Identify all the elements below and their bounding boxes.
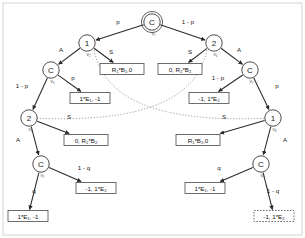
edge-label-A: A [16, 136, 21, 143]
node-label: C [247, 66, 253, 75]
payoff-layer: R₁*B₁,00, R₂*B₂1*E₁, -1-1, 1*E₂0, R₂*B₂R… [8, 64, 294, 222]
node-v4[interactable]: 2v₄ [21, 110, 37, 133]
infoset_right [30, 50, 207, 119]
edge-v5-to-payoff_8 [49, 168, 81, 182]
payoff-box: 1*E₁, -1 [70, 93, 110, 104]
payoff-text: -1, 1*E₂ [198, 95, 220, 102]
node-label: C [48, 66, 54, 75]
edge-label-1p: 1 - p [182, 18, 195, 25]
payoff-box: 1*E₁, -1 [185, 183, 225, 194]
node-vertex-label: v₅ [40, 173, 44, 178]
edge-v9-to-payoff_9 [220, 167, 253, 181]
payoff-box: -1, 1*E₂ [76, 183, 116, 194]
edge-v8-to-v9 [263, 127, 270, 155]
node-label: C [258, 160, 264, 169]
payoff-text: 0, R₂*B₂ [75, 137, 98, 144]
edge-v4-to-payoff_5 [37, 121, 69, 133]
payoff-text: R₁*B₁,0 [188, 137, 209, 144]
edge-label-p: p [116, 18, 120, 25]
payoff-text: R₁*B₁,0 [112, 66, 133, 73]
payoff-text: 1*E₁, -1 [194, 185, 216, 192]
edge-label-p: p [275, 82, 279, 89]
node-label: C [149, 18, 155, 27]
node-vertex-label: v₄ [28, 127, 32, 132]
edge-v3-to-v4 [33, 78, 47, 109]
edge-label-1q: 1 - q [78, 164, 91, 171]
edge-v1-to-v2 [96, 25, 144, 40]
node-label: 2 [212, 39, 217, 48]
edge-label-A: A [237, 46, 242, 53]
payoff-text: 1*E₁, -1 [79, 95, 101, 102]
edge-v3-to-payoff_3 [58, 75, 81, 91]
edge-label-S: S [188, 48, 192, 55]
edge-label-layer: p1 - pASSA1 - pp1 - ppSASAq1 - qq1 - q [16, 18, 288, 194]
edge-label-S: S [109, 48, 113, 55]
node-v8[interactable]: 1v₈ [265, 110, 281, 133]
payoff-box: R₁*B₁,0 [176, 135, 220, 146]
information-set-layer [30, 50, 272, 119]
node-label: 1 [85, 39, 90, 48]
payoff-box: 0, R₂*B₂ [64, 135, 108, 146]
edge-label-1p: 1 - p [16, 82, 29, 89]
infoset_left [94, 50, 272, 119]
edge-label-A: A [283, 136, 288, 143]
payoff-text: 0, R₂*B₂ [169, 66, 192, 73]
node-v1[interactable]: Cv₁ [141, 11, 162, 36]
node-vertex-label: v₉ [260, 173, 264, 178]
edge-label-A: A [59, 46, 64, 53]
node-v2[interactable]: 1v₂ [79, 35, 95, 58]
node-vertex-label: v₁ [152, 31, 156, 36]
diagram-frame [3, 3, 302, 235]
game-tree-svg: R₁*B₁,00, R₂*B₂1*E₁, -1-1, 1*E₂0, R₂*B₂R… [0, 0, 305, 238]
node-v9[interactable]: Cv₉ [253, 156, 269, 179]
edge-v7-to-v8 [254, 78, 269, 110]
edge-label-1p: 1 - p [212, 74, 225, 81]
diagram-canvas: R₁*B₁,00, R₂*B₂1*E₁, -1-1, 1*E₂0, R₂*B₂R… [0, 0, 305, 238]
node-label: 2 [27, 114, 32, 123]
payoff-box: R₁*B₁,0 [100, 64, 144, 75]
edge-label-S: S [67, 113, 71, 120]
payoff-text: -1, 1*E₂ [85, 185, 107, 192]
edge-label-q: q [32, 187, 36, 194]
edge-label-p: p [71, 74, 75, 81]
edge-v8-to-payoff_6 [220, 120, 264, 133]
node-vertex-label: v₂ [86, 52, 90, 57]
node-layer: Cv₁1v₂2v₆Cv₃Cv₇2v₄1v₈Cv₅Cv₉ [21, 11, 281, 178]
payoff-box: -1, 1*E₂ [189, 93, 229, 104]
payoff-box: 0, R₂*B₂ [158, 64, 202, 75]
payoff-box: -1, 1*E₂ [254, 211, 294, 222]
node-v6[interactable]: 2v₆ [206, 35, 222, 58]
payoff-text: 1*E₁, -1 [17, 213, 39, 220]
node-vertex-label: v₇ [250, 79, 254, 84]
node-v5[interactable]: Cv₅ [33, 156, 49, 179]
node-label: C [38, 160, 44, 169]
node-label: 1 [271, 114, 276, 123]
edge-v1-to-v6 [160, 25, 205, 40]
edge-label-1q: 1 - q [267, 187, 280, 194]
edge-label-S: S [222, 113, 226, 120]
edge-label-q: q [217, 164, 221, 171]
node-vertex-label: v₈ [272, 127, 276, 132]
payoff-text: -1, 1*E₂ [263, 213, 285, 220]
node-vertex-label: v₃ [50, 79, 54, 84]
payoff-box: 1*E₁, -1 [8, 211, 48, 222]
node-v3[interactable]: Cv₃ [43, 62, 59, 85]
node-vertex-label: v₆ [213, 52, 217, 57]
